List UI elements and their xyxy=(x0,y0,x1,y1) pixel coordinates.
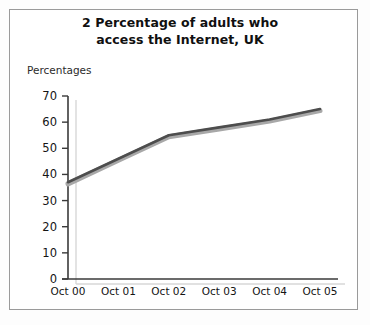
y-axis-ticks xyxy=(62,96,68,279)
y-axis-tick-label: 40 xyxy=(42,167,57,181)
y-axis-tick-label: 70 xyxy=(42,89,57,103)
y-axis-tick-labels: 010203040506070 xyxy=(42,89,57,286)
x-axis-tick-label: Oct 00 xyxy=(51,285,86,297)
x-axis-tick-label: Oct 03 xyxy=(202,285,237,297)
x-axis-tick-label: Oct 05 xyxy=(303,285,338,297)
x-axis-tick-label: Oct 04 xyxy=(252,285,287,297)
y-axis: 010203040506070 xyxy=(42,89,68,286)
x-axis-tick-label: Oct 02 xyxy=(151,285,186,297)
x-axis-tick-label: Oct 01 xyxy=(101,285,136,297)
figure-root: 2 Percentage of adults who access the In… xyxy=(0,0,370,325)
x-axis-tick-labels: Oct 00Oct 01Oct 02Oct 03Oct 04Oct 05 xyxy=(51,285,338,297)
y-axis-tick-label: 60 xyxy=(42,115,57,129)
data-series-line xyxy=(68,109,320,184)
y-axis-tick-label: 20 xyxy=(42,220,57,234)
y-axis-tick-label: 50 xyxy=(42,141,57,155)
y-axis-tick-label: 10 xyxy=(42,246,57,260)
chart-plot-area: 010203040506070 Oct 00Oct 01Oct 02Oct 03… xyxy=(0,0,370,325)
y-axis-tick-label: 0 xyxy=(50,272,57,286)
y-axis-tick-label: 30 xyxy=(42,194,57,208)
x-axis: Oct 00Oct 01Oct 02Oct 03Oct 04Oct 05 xyxy=(51,279,338,297)
